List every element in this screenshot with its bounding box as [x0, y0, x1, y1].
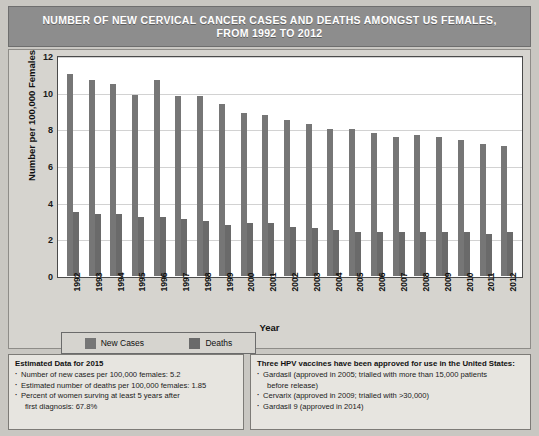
x-axis-tick-label: 2009: [443, 273, 453, 292]
x-axis-tick: 2002: [279, 280, 301, 322]
bar-deaths: [486, 234, 492, 276]
x-axis-tick: 1993: [83, 280, 105, 322]
bar-deaths: [203, 221, 209, 276]
estimated-data-heading: Estimated Data for 2015: [15, 359, 237, 368]
x-axis-tick: 2010: [454, 280, 476, 322]
hpv-vaccine-item: Gardasil (approved in 2005; trialled wit…: [257, 370, 524, 381]
legend-item-deaths: Deaths: [189, 338, 232, 349]
bar-group: [366, 58, 388, 276]
x-axis-tick-labels: 1992199319941995199619971998199920002001…: [58, 280, 522, 322]
x-axis-tick-label: 1999: [225, 273, 235, 292]
bar-group: [388, 58, 410, 276]
x-axis-tick: 2006: [366, 280, 388, 322]
y-axis-tick: 10: [15, 89, 53, 99]
bar-deaths: [73, 212, 79, 276]
bar-group: [301, 58, 323, 276]
bar-deaths: [312, 228, 318, 276]
bar-deaths: [181, 219, 187, 276]
plot-area: [57, 56, 523, 278]
bar-group: [149, 58, 171, 276]
chart-title: NUMBER OF NEW CERVICAL CANCER CASES AND …: [32, 14, 506, 40]
hpv-vaccine-item-continuation: before release): [257, 381, 524, 392]
hpv-vaccines-heading: Three HPV vaccines have been approved fo…: [257, 359, 524, 368]
legend-label-new-cases: New Cases: [101, 338, 144, 348]
x-axis-tick: 2011: [475, 280, 497, 322]
chart-title-line1: NUMBER OF NEW CERVICAL CANCER CASES AND …: [42, 14, 496, 26]
bar-deaths: [377, 232, 383, 276]
x-axis-tick-label: 2008: [421, 273, 431, 292]
bar-group: [496, 58, 518, 276]
estimated-data-item: Estimated number of deaths per 100,000 f…: [15, 381, 237, 392]
chart-title-bar: NUMBER OF NEW CERVICAL CANCER CASES AND …: [8, 6, 531, 47]
x-axis-tick-label: 2005: [355, 273, 365, 292]
x-axis-tick: 1999: [214, 280, 236, 322]
bar-group: [192, 58, 214, 276]
y-axis-tick: 0: [15, 272, 53, 282]
estimated-data-note: Estimated Data for 2015 Number of new ca…: [8, 354, 244, 430]
x-axis-tick-label: 1992: [72, 273, 82, 292]
x-axis-tick: 2001: [257, 280, 279, 322]
x-axis-tick-label: 2000: [246, 273, 256, 292]
bar-deaths: [442, 232, 448, 276]
chart-title-line2: FROM 1992 TO 2012: [217, 27, 323, 39]
x-axis-tick-label: 2011: [486, 273, 496, 291]
x-axis-tick: 2008: [410, 280, 432, 322]
y-axis-tick-labels: 024681012: [9, 56, 53, 278]
estimated-data-item-continuation: first diagnosis: 67.8%: [15, 402, 237, 413]
bar-deaths: [333, 230, 339, 276]
bar-deaths: [464, 232, 470, 276]
bar-group: [62, 58, 84, 276]
estimated-data-item: Number of new cases per 100,000 females:…: [15, 370, 237, 381]
y-axis-tick: 2: [15, 235, 53, 245]
x-axis-tick: 1998: [192, 280, 214, 322]
x-axis-tick-label: 2003: [312, 273, 322, 292]
bar-group: [410, 58, 432, 276]
estimated-data-item: Percent of women surving at least 5 year…: [15, 391, 237, 402]
legend-item-new-cases: New Cases: [85, 338, 144, 349]
bar-group: [279, 58, 301, 276]
infographic-poster: NUMBER OF NEW CERVICAL CANCER CASES AND …: [0, 0, 539, 436]
x-axis-tick: 1996: [148, 280, 170, 322]
legend-swatch-deaths: [189, 338, 200, 349]
x-axis-tick: 1995: [126, 280, 148, 322]
x-axis-tick-label: 1996: [159, 273, 169, 292]
x-axis-tick: 1994: [105, 280, 127, 322]
bar-deaths: [355, 232, 361, 276]
bar-group: [453, 58, 475, 276]
bar-group: [171, 58, 193, 276]
x-axis-tick: 2003: [301, 280, 323, 322]
bar-group: [475, 58, 497, 276]
bar-deaths: [116, 214, 122, 276]
x-axis-tick-label: 2004: [334, 273, 344, 292]
x-axis-tick-label: 1993: [94, 273, 104, 292]
x-axis-tick: 2007: [388, 280, 410, 322]
bar-group: [127, 58, 149, 276]
x-axis-tick: 2012: [497, 280, 519, 322]
bar-deaths: [420, 232, 426, 276]
x-axis-tick: 1992: [61, 280, 83, 322]
y-axis-tick: 8: [15, 125, 53, 135]
hpv-vaccines-note: Three HPV vaccines have been approved fo…: [250, 354, 531, 430]
bar-deaths: [95, 214, 101, 276]
x-axis-tick: 2004: [323, 280, 345, 322]
bar-group: [344, 58, 366, 276]
bar-deaths: [399, 232, 405, 276]
x-axis-tick-label: 1998: [203, 273, 213, 292]
x-axis-tick: 2009: [432, 280, 454, 322]
chart-panel: Number per 100,000 Females 024681012 199…: [8, 49, 531, 349]
y-axis-tick: 6: [15, 162, 53, 172]
x-axis-tick: 2000: [236, 280, 258, 322]
bar-group: [431, 58, 453, 276]
notes-row: Estimated Data for 2015 Number of new ca…: [8, 354, 531, 430]
x-axis-tick-label: 2002: [290, 273, 300, 292]
bar-series-container: [59, 58, 521, 276]
x-axis-tick-label: 2006: [377, 273, 387, 292]
bar-deaths: [225, 225, 231, 276]
x-axis-tick: 2005: [345, 280, 367, 322]
bar-group: [105, 58, 127, 276]
x-axis-tick-label: 2001: [268, 273, 278, 292]
bar-group: [236, 58, 258, 276]
x-axis-tick-label: 1995: [137, 273, 147, 292]
bar-deaths: [268, 223, 274, 276]
x-axis-tick-label: 2010: [465, 273, 475, 292]
